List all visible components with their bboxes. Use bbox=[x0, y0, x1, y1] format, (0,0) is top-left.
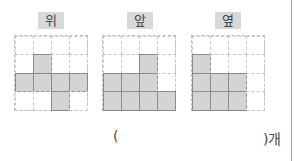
empty-cell-3-3 bbox=[69, 91, 88, 111]
empty-cell-1-0 bbox=[15, 54, 34, 74]
filled-cell-1-1 bbox=[33, 54, 52, 74]
filled-cell-3-2 bbox=[51, 91, 70, 111]
filled-cell-2-0 bbox=[15, 73, 34, 93]
filled-cell-2-0 bbox=[103, 73, 122, 93]
page-divider bbox=[291, 0, 292, 161]
filled-cell-2-2 bbox=[139, 73, 158, 93]
empty-cell-2-3 bbox=[157, 73, 176, 93]
filled-cell-2-0 bbox=[192, 73, 211, 93]
empty-cell-1-2 bbox=[51, 54, 70, 74]
empty-cell-0-3 bbox=[157, 36, 176, 56]
empty-cell-1-1 bbox=[210, 54, 229, 74]
empty-cell-0-3 bbox=[246, 36, 265, 56]
empty-cell-0-2 bbox=[139, 36, 158, 56]
empty-cell-3-0 bbox=[15, 91, 34, 111]
empty-cell-0-2 bbox=[51, 36, 70, 56]
filled-cell-2-3 bbox=[69, 73, 88, 93]
filled-cell-1-2 bbox=[139, 54, 158, 74]
filled-cell-2-2 bbox=[228, 73, 247, 93]
empty-cell-1-3 bbox=[69, 54, 88, 74]
filled-cell-1-0 bbox=[192, 54, 211, 74]
filled-cell-3-0 bbox=[103, 91, 122, 111]
empty-cell-1-3 bbox=[157, 54, 176, 74]
empty-cell-0-0 bbox=[192, 36, 211, 56]
empty-cell-2-3 bbox=[246, 73, 265, 93]
empty-cell-1-2 bbox=[228, 54, 247, 74]
empty-cell-0-2 bbox=[228, 36, 247, 56]
filled-cell-3-2 bbox=[228, 91, 247, 111]
filled-cell-2-1 bbox=[121, 73, 140, 93]
filled-cell-2-1 bbox=[33, 73, 52, 93]
view-label-side: 옆 bbox=[215, 12, 241, 29]
filled-cell-3-2 bbox=[139, 91, 158, 111]
answer-blank[interactable] bbox=[125, 128, 255, 146]
answer-open-paren: ( bbox=[113, 128, 118, 144]
filled-cell-3-0 bbox=[192, 91, 211, 111]
answer-unit: )개 bbox=[263, 128, 281, 148]
empty-cell-0-1 bbox=[210, 36, 229, 56]
empty-cell-1-0 bbox=[103, 54, 122, 74]
empty-cell-0-3 bbox=[69, 36, 88, 56]
empty-cell-0-0 bbox=[15, 36, 34, 56]
filled-cell-3-1 bbox=[210, 91, 229, 111]
empty-cell-0-1 bbox=[33, 36, 52, 56]
view-label-top: 위 bbox=[38, 12, 64, 29]
grid-front bbox=[102, 35, 176, 111]
empty-cell-3-1 bbox=[33, 91, 52, 111]
filled-cell-3-1 bbox=[121, 91, 140, 111]
filled-cell-3-3 bbox=[157, 91, 176, 111]
grid-top bbox=[14, 35, 88, 111]
empty-cell-3-3 bbox=[246, 91, 265, 111]
empty-cell-0-0 bbox=[103, 36, 122, 56]
filled-cell-2-2 bbox=[51, 73, 70, 93]
empty-cell-1-1 bbox=[121, 54, 140, 74]
empty-cell-0-1 bbox=[121, 36, 140, 56]
filled-cell-2-1 bbox=[210, 73, 229, 93]
grid-side bbox=[191, 35, 265, 111]
empty-cell-1-3 bbox=[246, 54, 265, 74]
view-label-front: 앞 bbox=[127, 12, 153, 29]
